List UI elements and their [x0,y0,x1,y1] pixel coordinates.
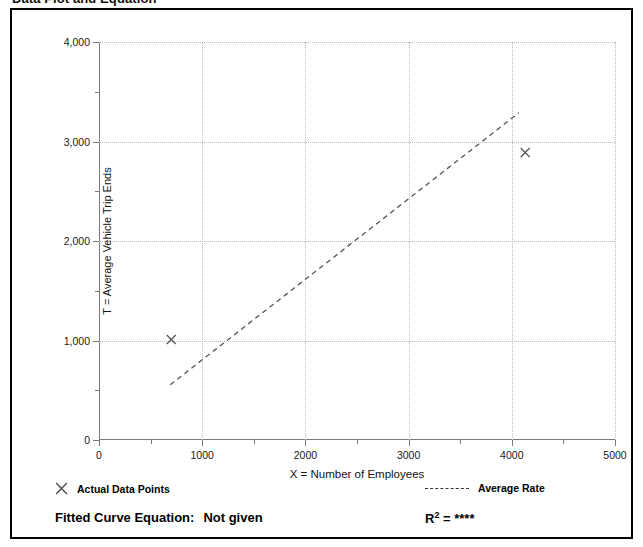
tick-y [93,440,99,441]
y-axis-title: T = Average Vehicle Trip Ends [101,167,113,314]
x-marker-icon [55,482,68,495]
fitted-curve-equation-label: Fitted Curve Equation: [55,510,194,525]
y-tick-label: 2,000 [64,235,90,247]
r-squared-equals: = [443,511,451,526]
r-squared-text: R2 = **** [425,510,475,526]
tick-x-minor [151,440,152,444]
legend-item-average-rate: Average Rate [425,482,545,494]
tick-x [99,440,100,446]
chart-plot-area: 01,0002,0003,0004,000 010002000300040005… [99,42,615,440]
tick-x [409,440,410,446]
data-point-marker [521,148,530,157]
tick-x [305,440,306,446]
trendline-average-rate [170,113,519,385]
tick-x-minor [254,440,255,444]
tick-x-minor [357,440,358,444]
chart-data-layer [99,42,615,440]
dashed-line-icon [425,488,469,489]
r-squared-value: **** [454,511,474,526]
y-tick-label: 0 [84,434,90,446]
y-tick-label: 3,000 [64,136,90,148]
legend-item-actual-data-points: Actual Data Points [55,482,170,495]
y-tick-label: 4,000 [64,36,90,48]
x-tick-label: 0 [96,449,102,461]
x-tick-label: 5000 [603,449,626,461]
data-point-marker [167,335,176,344]
r-squared-stat: R2 = **** [425,510,475,526]
gridline-vertical [615,42,616,440]
fitted-curve-equation-value: Not given [203,510,262,525]
tick-x-minor [460,440,461,444]
x-tick-label: 2000 [294,449,317,461]
chart-legend: Actual Data Points Average Rate Fitted C… [10,478,633,540]
x-tick-label: 1000 [191,449,214,461]
fitted-curve-equation: Fitted Curve Equation: Not given [55,510,263,525]
page-title: Data Plot and Equation [12,0,156,6]
x-tick-label: 4000 [500,449,523,461]
x-tick-label: 3000 [397,449,420,461]
r-squared-label: R [425,511,434,526]
legend-label-actual-data-points: Actual Data Points [77,483,170,495]
y-tick-label: 1,000 [64,335,90,347]
legend-label-average-rate: Average Rate [478,482,545,494]
tick-x [202,440,203,446]
tick-x [512,440,513,446]
figure-frame: 01,0002,0003,0004,000 010002000300040005… [10,8,633,539]
tick-x [615,440,616,446]
r-squared-exponent: 2 [434,510,439,520]
tick-x-minor [563,440,564,444]
